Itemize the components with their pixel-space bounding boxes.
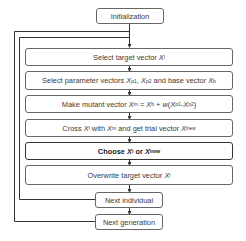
text: Cross [62, 124, 81, 133]
superscript: new [187, 126, 195, 131]
node-overwrite: Overwrite target vector Xi [25, 165, 233, 185]
subscript: p2 [146, 78, 152, 84]
subscript: i [89, 125, 90, 131]
text: Choose [98, 147, 125, 156]
text: or [135, 147, 142, 156]
node-label: Select target vector [93, 53, 157, 62]
subscript: i [132, 148, 133, 154]
subscript: b [151, 101, 154, 107]
node-label: Initialization [111, 12, 150, 21]
text: ) [194, 100, 196, 109]
subscript: i [169, 172, 170, 178]
text: and base vector [154, 76, 207, 85]
text: Overwrite target vector [88, 171, 163, 180]
text: = [140, 100, 144, 109]
node-mutant-vector: Make mutant vector Xm = Xb + w(Xp1-Xp2) [25, 95, 233, 113]
node-select-parameters: Select parameter vectors Xp1, Xp2 and ba… [25, 71, 233, 90]
node-label: Next individual [105, 196, 153, 205]
subscript: i [164, 54, 165, 60]
node-select-target: Select target vector Xi [25, 48, 233, 66]
text: Make mutant vector [62, 100, 127, 109]
text: and get trial vector [118, 124, 179, 133]
node-label: Next generation [103, 218, 155, 227]
subscript: m [134, 101, 138, 107]
node-initialization: Initialization [96, 8, 164, 24]
text: with [92, 124, 105, 133]
text: + [156, 100, 160, 109]
superscript: new [151, 149, 160, 154]
node-choose: Choose Xi or Xinew [25, 142, 233, 160]
node-next-individual: Next individual [95, 192, 163, 208]
node-crossover: Cross Xi with Xm and get trial vector Xi… [25, 119, 233, 137]
text: Select parameter vectors [42, 76, 124, 85]
subscript: m [112, 125, 116, 131]
node-next-generation: Next generation [95, 214, 163, 230]
text: , [137, 76, 139, 85]
subscript: b [213, 78, 216, 84]
